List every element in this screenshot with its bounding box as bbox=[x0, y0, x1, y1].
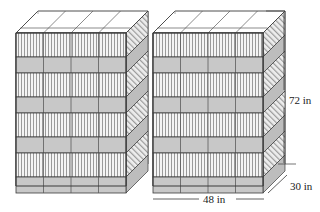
block-stack-figure: 72 in 48 in 30 in bbox=[0, 0, 320, 212]
right-stack-side-face bbox=[263, 11, 285, 193]
left-stack-top-face bbox=[16, 11, 148, 33]
diagram-canvas: 72 in 48 in 30 in bbox=[0, 0, 320, 212]
height-dimension-label: 72 in bbox=[289, 94, 312, 106]
left-stack-front-face bbox=[16, 33, 126, 193]
right-stack bbox=[153, 11, 285, 193]
scene-group bbox=[16, 11, 285, 193]
right-stack-front-face bbox=[153, 33, 263, 193]
depth-dimension-label: 30 in bbox=[290, 180, 313, 192]
left-stack-side-face bbox=[126, 11, 148, 193]
left-stack bbox=[16, 11, 148, 193]
width-dimension: 48 in bbox=[153, 193, 264, 205]
right-stack-top-face bbox=[153, 11, 285, 33]
width-dimension-label: 48 in bbox=[203, 193, 226, 205]
